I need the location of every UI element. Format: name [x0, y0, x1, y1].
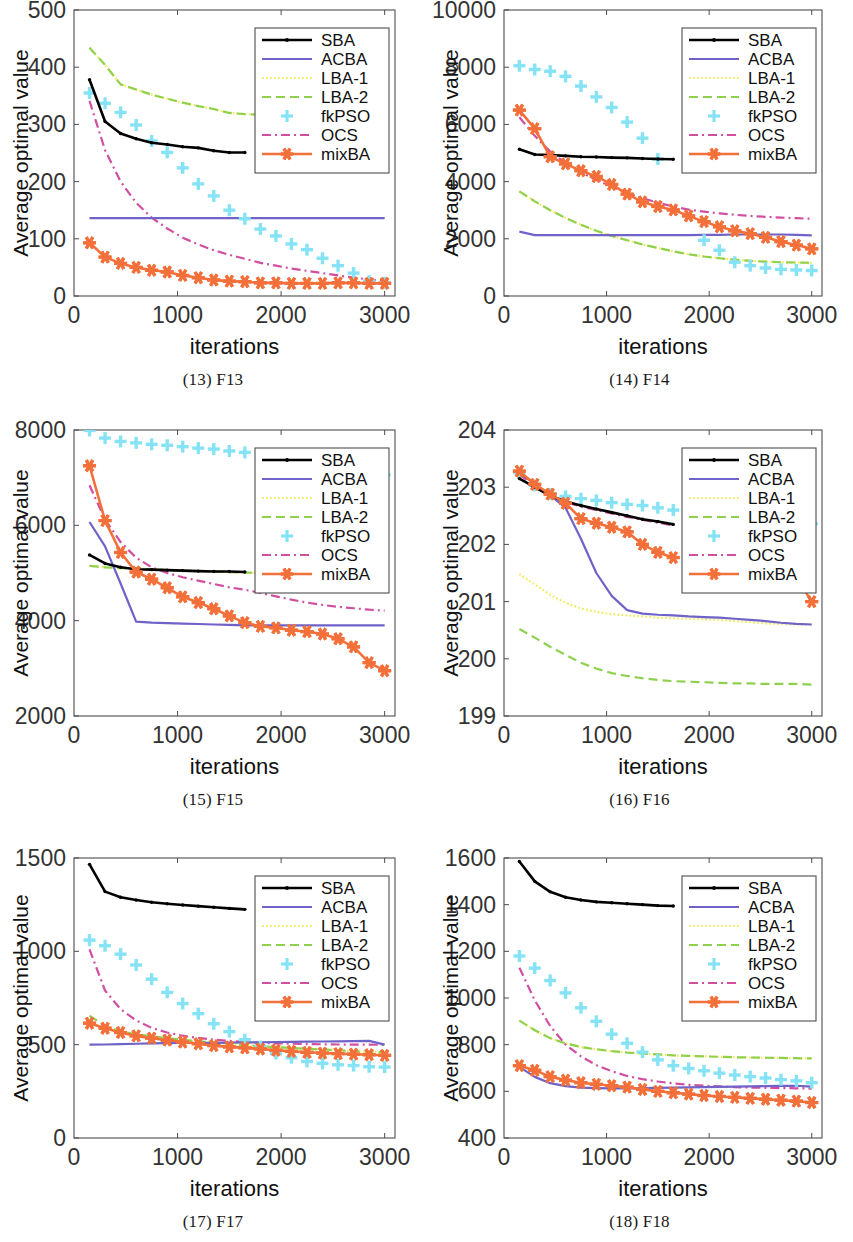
x-tick-label: 2000 [256, 722, 307, 748]
x-tick-label: 2000 [684, 1144, 735, 1170]
marker-dot [579, 898, 582, 901]
legend: SBAACBALBA-1LBA-2fkPSOOCSmixBA [682, 876, 816, 1021]
chart-panel-f14: 01000200030000200040006000800010000itera… [426, 0, 853, 410]
panel-caption: (18) F18 [426, 1212, 853, 1232]
marker-dot [103, 890, 106, 893]
marker-dot [150, 141, 153, 144]
marker-dot [548, 890, 551, 893]
marker-dot [656, 904, 659, 907]
x-tick-label: 1000 [581, 1144, 632, 1170]
legend: SBAACBALBA-1LBA-2fkPSOOCSmixBA [682, 28, 816, 173]
legend-label: LBA-2 [748, 508, 795, 527]
marker-dot [134, 898, 137, 901]
legend-label: SBA [748, 451, 783, 470]
legend-label: LBA-2 [748, 936, 795, 955]
marker-dot [656, 157, 659, 160]
legend-label: ACBA [321, 50, 368, 69]
x-tick-label: 2000 [256, 302, 307, 328]
marker-dot [165, 568, 168, 571]
marker-dot [579, 155, 582, 158]
marker-dot [119, 132, 122, 135]
legend-label: ACBA [748, 50, 795, 69]
marker-dot [641, 157, 644, 160]
legend-label: mixBA [321, 145, 371, 164]
legend-label: fkPSO [321, 527, 370, 546]
x-tick-label: 2000 [684, 302, 735, 328]
marker-dot [672, 158, 675, 161]
y-tick-label: 2000 [15, 703, 66, 729]
chart-svg-f13: 01000200030000100200300400500iterationsA… [0, 0, 426, 410]
chart-panel-f17: 0100020003000050010001500iterationsAvera… [0, 820, 426, 1242]
x-axis-label: iterations [618, 334, 707, 359]
legend-label: mixBA [321, 565, 371, 584]
x-tick-label: 1000 [152, 1144, 203, 1170]
legend: SBAACBALBA-1LBA-2fkPSOOCSmixBA [255, 448, 389, 593]
marker-dot [243, 908, 246, 911]
legend-dot-icon [285, 458, 289, 462]
marker-dot [518, 860, 521, 863]
chart-panel-f15: 01000200030002000400060008000iterationsA… [0, 410, 426, 820]
legend-label: LBA-1 [748, 69, 795, 88]
legend-label: OCS [748, 546, 785, 565]
legend-dot-icon [712, 38, 716, 42]
x-tick-label: 1000 [152, 302, 203, 328]
legend-label: OCS [748, 974, 785, 993]
marker-dot [610, 901, 613, 904]
legend-label: OCS [321, 126, 358, 145]
legend-label: mixBA [748, 565, 798, 584]
x-tick-label: 1000 [581, 302, 632, 328]
marker-dot [641, 903, 644, 906]
marker-dot [533, 153, 536, 156]
marker-dot [228, 570, 231, 573]
legend-dot-icon [712, 458, 716, 462]
y-tick-label: 1500 [15, 845, 66, 871]
legend-label: mixBA [748, 145, 798, 164]
y-tick-label: 204 [458, 417, 497, 443]
legend-label: LBA-2 [321, 88, 368, 107]
marker-dot [656, 520, 659, 523]
chart-panel-f18: 01000200030004006008001000120014001600it… [426, 820, 853, 1242]
x-axis-label: iterations [618, 754, 707, 779]
marker-dot [197, 904, 200, 907]
x-axis-label: iterations [190, 1176, 279, 1201]
y-tick-label: 201 [458, 589, 496, 615]
marker-dot [88, 553, 91, 556]
marker-dot [88, 78, 91, 81]
x-tick-label: 3000 [786, 722, 837, 748]
y-axis-label: Average optimal value [9, 49, 32, 256]
y-axis-label: Average optimal value [439, 894, 462, 1101]
marker-dot [88, 863, 91, 866]
marker-dot [625, 514, 628, 517]
x-tick-label: 0 [498, 722, 511, 748]
x-axis-label: iterations [190, 754, 279, 779]
x-tick-label: 0 [498, 302, 511, 328]
legend-label: SBA [321, 451, 356, 470]
marker-dot [150, 568, 153, 571]
marker-dot [625, 902, 628, 905]
y-tick-label: 10000 [432, 0, 496, 23]
legend: SBAACBALBA-1LBA-2fkPSOOCSmixBA [682, 448, 816, 593]
marker-dot [181, 903, 184, 906]
x-tick-label: 3000 [786, 302, 837, 328]
legend-label: OCS [748, 126, 785, 145]
legend-label: SBA [748, 879, 783, 898]
legend-label: fkPSO [748, 527, 797, 546]
y-tick-label: 1600 [445, 845, 496, 871]
panel-caption: (14) F14 [426, 370, 853, 390]
legend-label: LBA-1 [748, 917, 795, 936]
legend-label: SBA [321, 879, 356, 898]
marker-dot [595, 155, 598, 158]
legend-label: LBA-1 [321, 917, 368, 936]
legend-dot-icon [285, 886, 289, 890]
marker-dot [610, 511, 613, 514]
marker-dot [119, 566, 122, 569]
marker-dot [533, 880, 536, 883]
marker-dot [181, 569, 184, 572]
legend-dot-icon [285, 38, 289, 42]
marker-dot [518, 148, 521, 151]
chart-svg-f18: 01000200030004006008001000120014001600it… [426, 820, 853, 1242]
panel-caption: (17) F17 [0, 1212, 426, 1232]
y-tick-label: 0 [53, 1125, 66, 1151]
legend-label: SBA [321, 31, 356, 50]
x-axis-label: iterations [618, 1176, 707, 1201]
